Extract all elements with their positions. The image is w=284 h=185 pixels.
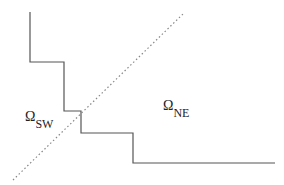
omega-symbol: Ω — [25, 109, 35, 124]
subscript-sw: SW — [35, 117, 53, 131]
subscript-ne: NE — [173, 106, 189, 120]
region-label-ne: ΩNE — [163, 99, 189, 113]
staircase-boundary — [30, 12, 275, 163]
domain-diagram — [0, 0, 284, 185]
omega-symbol: Ω — [163, 98, 173, 113]
region-label-sw: ΩSW — [25, 110, 53, 124]
dotted-diagonal — [13, 13, 184, 180]
